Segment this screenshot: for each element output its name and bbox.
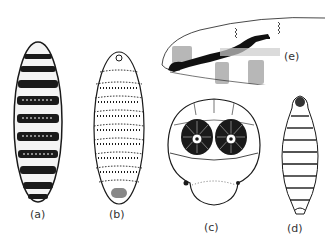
- panel-c-label: (c): [204, 221, 219, 234]
- tapered-larva-illustration: [278, 94, 322, 218]
- panel-a: (a): [8, 38, 68, 206]
- larva-dark-illustration: [8, 38, 68, 206]
- figure: (a): [0, 0, 328, 246]
- panel-e: (e): [160, 10, 328, 85]
- panel-c: (c): [164, 95, 264, 237]
- posterior-spiracles-illustration: [164, 95, 264, 215]
- larva-light-illustration: [92, 50, 146, 206]
- panel-d-label: (d): [287, 222, 303, 235]
- mouth-hook-illustration: [160, 10, 328, 85]
- panel-b: (b): [92, 50, 146, 206]
- panel-a-label: (a): [30, 208, 45, 221]
- panel-b-label: (b): [109, 208, 125, 221]
- panel-e-label: (e): [284, 50, 299, 63]
- panel-d: (d): [278, 94, 322, 238]
